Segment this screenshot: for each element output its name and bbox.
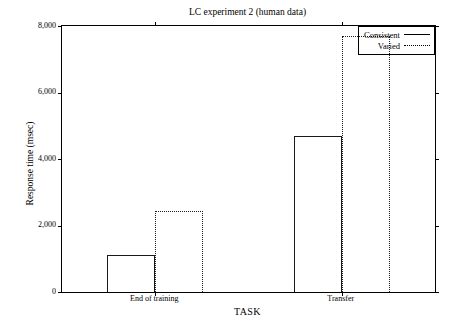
y-tick-label: 8,000 (12, 21, 56, 30)
y-tick-mark (435, 26, 439, 27)
chart-figure: LC experiment 2 (human data) Response ti… (0, 0, 454, 328)
bar-consistent-transfer (294, 136, 342, 292)
bar-varied-transfer (342, 36, 390, 292)
x-category-label: End of training (130, 294, 178, 304)
legend-swatch-dotted-icon (404, 45, 430, 46)
y-tick-mark (435, 226, 439, 227)
x-tick-mark (155, 22, 156, 26)
y-tick-label: 2,000 (12, 220, 56, 229)
y-tick-mark (435, 292, 439, 293)
y-tick-mark (435, 93, 439, 94)
x-axis-title: TASK (61, 306, 434, 318)
y-tick-label: 6,000 (12, 87, 56, 96)
y-tick-mark (58, 159, 62, 160)
bar-consistent-end-of-training (107, 255, 155, 292)
x-tick-mark (342, 22, 343, 26)
y-tick-label: 0 (12, 287, 56, 296)
y-tick-mark (58, 26, 62, 27)
bar-varied-end-of-training (155, 211, 203, 292)
y-tick-mark (58, 93, 62, 94)
y-tick-label: 4,000 (12, 154, 56, 163)
y-tick-mark (58, 226, 62, 227)
chart-title: LC experiment 2 (human data) (61, 6, 434, 18)
x-category-label: Transfer (327, 294, 354, 304)
plot-area: Consistent Varied (61, 25, 436, 293)
y-tick-mark (58, 292, 62, 293)
legend-swatch-solid-icon (404, 34, 430, 35)
y-tick-mark (435, 159, 439, 160)
